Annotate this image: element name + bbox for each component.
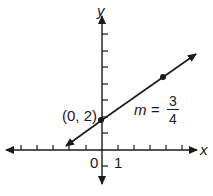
y-axis bbox=[102, 16, 108, 184]
slope-numerator: 3 bbox=[166, 93, 180, 109]
point-y-intercept bbox=[98, 117, 104, 123]
x-axis-label: x bbox=[200, 142, 208, 157]
x-tick-label-1: 1 bbox=[114, 155, 122, 170]
slope-label: m = bbox=[134, 102, 159, 117]
y-axis-label: y bbox=[97, 3, 105, 18]
point-label: (0, 2) bbox=[62, 108, 97, 123]
fraction-bar bbox=[167, 109, 179, 110]
slope-denominator: 4 bbox=[166, 111, 180, 127]
point-4-5 bbox=[160, 74, 166, 80]
slope-intercept-graph: y x 0 1 (0, 2) m = 3 4 bbox=[0, 0, 213, 196]
coordinate-plane bbox=[0, 0, 213, 196]
origin-label: 0 bbox=[90, 155, 98, 170]
